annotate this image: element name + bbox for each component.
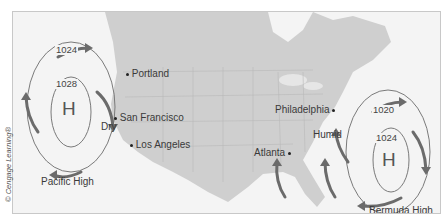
isobar-label: 1028 [55,79,78,89]
city-dot-icon [288,152,291,155]
isobar-label: 1024 [55,45,78,55]
arrow-icon [26,97,38,132]
city-portland: Portland [126,69,169,79]
landmass [105,12,391,207]
high-pressure-symbol: H [62,99,76,118]
city-los-angeles: Los Angeles [130,140,190,150]
city-atlanta: Atlanta [254,148,291,158]
city-san-francisco: San Francisco [114,113,184,123]
city-dot-icon [126,73,129,76]
climate-label-dry: Dry [101,122,117,132]
map-frame: 1024 1028 H Pacific High 1020 1024 H Ber… [12,11,441,214]
high-pressure-symbol: H [382,150,396,169]
pressure-system-label: Pacific High [41,177,94,187]
pressure-system-label: Bermuda High [369,206,433,214]
city-dot-icon [332,109,335,112]
city-dot-icon [114,117,117,120]
city-dot-icon [130,144,133,147]
city-philadelphia: Philadelphia [275,105,335,115]
copyright-credit: © Cengage Learning® [4,125,13,205]
isobar-label: 1020 [372,105,395,115]
arrow-icon [325,162,335,197]
isobar-label: 1024 [375,133,398,143]
climate-label-humid: Humid [313,130,342,140]
arrow-icon [413,132,426,170]
